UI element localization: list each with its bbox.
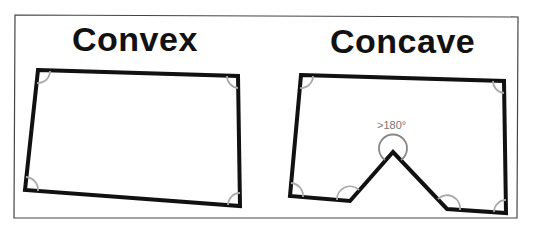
convex-title: Convex xyxy=(72,20,198,59)
concave-polygon xyxy=(290,75,506,213)
diagram-frame: Convex Concave >180° xyxy=(0,0,535,235)
reflex-angle-arc xyxy=(379,135,407,160)
convex-polygon xyxy=(25,70,240,206)
reflex-angle-label: >180° xyxy=(377,119,406,131)
concave-title: Concave xyxy=(330,22,475,61)
